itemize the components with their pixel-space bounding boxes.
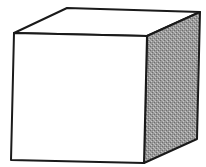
cube-front-face: [11, 33, 147, 163]
cube-side-face: [144, 12, 200, 163]
cube-diagram: [0, 0, 206, 167]
